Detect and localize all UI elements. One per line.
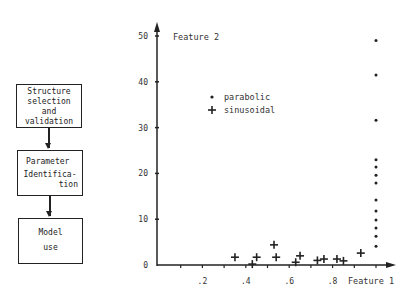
legend: parabolic sinusoidal xyxy=(208,92,275,115)
parabolic-point xyxy=(375,209,378,212)
y-axis-arrow-icon xyxy=(154,22,160,32)
sinusoidal-point xyxy=(296,252,304,260)
sinusoidal-point xyxy=(339,257,347,265)
x-tick-label: .8 xyxy=(328,277,338,286)
legend-plus-icon xyxy=(208,106,216,114)
sinusoidal-point xyxy=(333,255,341,263)
y-tick-label: 10 xyxy=(138,215,148,224)
parabolic-point xyxy=(375,119,378,122)
parabolic-point xyxy=(375,73,378,76)
y-tick-label: 0 xyxy=(143,261,148,270)
legend-label-sinusoidal: sinusoidal xyxy=(224,105,275,115)
legend-label-parabolic: parabolic xyxy=(224,92,270,102)
y-tick-label: 40 xyxy=(138,78,148,87)
x-axis-label: Feature 1 xyxy=(348,276,394,286)
x-ticks: .2.4.6.8 xyxy=(181,265,376,286)
parabolic-point xyxy=(375,39,378,42)
sinusoidal-point xyxy=(357,249,365,257)
y-tick-label: 50 xyxy=(138,32,148,41)
axes xyxy=(157,28,390,266)
x-axis-arrow-icon xyxy=(386,262,396,268)
y-ticks: 01020304050 xyxy=(138,32,159,270)
x-tick-label: .6 xyxy=(284,277,294,286)
parabolic-point xyxy=(375,226,378,229)
parabolic-point xyxy=(375,235,378,238)
parabolic-point xyxy=(375,158,378,161)
scatter-plot: 01020304050 .2.4.6.8 Feature 2 Feature 1… xyxy=(0,0,407,296)
sinusoidal-point xyxy=(272,253,280,261)
sinusoidal-point xyxy=(231,253,239,261)
parabolic-point xyxy=(375,165,378,168)
parabolic-point xyxy=(375,174,378,177)
sinusoidal-point xyxy=(313,256,321,264)
parabolic-point xyxy=(375,219,378,222)
parabolic-point xyxy=(375,245,378,248)
legend-dot-icon xyxy=(210,95,213,98)
parabolic-point xyxy=(375,182,378,185)
parabolic-point xyxy=(375,198,378,201)
x-tick-label: .2 xyxy=(198,277,208,286)
sinusoidal-point xyxy=(270,241,278,249)
y-tick-label: 30 xyxy=(138,124,148,133)
y-axis-label: Feature 2 xyxy=(173,32,219,42)
sinusoidal-point xyxy=(253,253,261,261)
sinusoidal-point xyxy=(248,260,256,268)
y-tick-label: 20 xyxy=(138,169,148,178)
data-points xyxy=(231,39,378,268)
x-tick-label: .4 xyxy=(241,277,251,286)
sinusoidal-point xyxy=(320,255,328,263)
